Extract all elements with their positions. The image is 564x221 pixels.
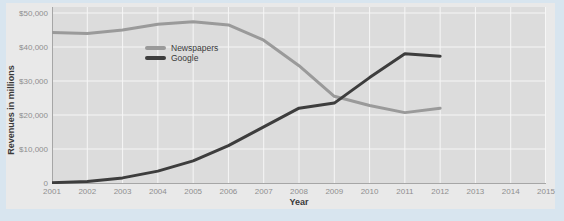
chart-canvas [52,7,546,184]
x-tick-label: 2012 [424,187,456,196]
x-tick-label: 2013 [459,187,491,196]
x-tick-label: 2006 [212,187,244,196]
x-tick-label: 2010 [354,187,386,196]
x-tick-label: 2004 [142,187,174,196]
legend-item-google: Google [145,53,218,63]
google-line-swatch [145,56,166,60]
y-tick-label: $50,000 [8,9,48,18]
plot-area [52,7,546,184]
y-axis-title: Revenues in millions [6,35,18,185]
x-tick-label: 2007 [248,187,280,196]
legend-label-google: Google [171,53,198,63]
chart-legend: Newspapers Google [145,43,218,63]
x-tick-label: 2005 [177,187,209,196]
x-tick-label: 2003 [107,187,139,196]
x-axis-title: Year [52,197,546,207]
x-tick-label: 2014 [495,187,527,196]
revenue-line-chart: Revenues in millions 0$10,000$20,000$30,… [6,3,555,209]
x-tick-label: 2001 [36,187,68,196]
x-tick-label: 2002 [71,187,103,196]
legend-label-newspapers: Newspapers [171,43,218,53]
x-tick-label: 2008 [283,187,315,196]
x-tick-label: 2011 [389,187,421,196]
chart-page: Revenues in millions 0$10,000$20,000$30,… [0,0,564,221]
legend-item-newspapers: Newspapers [145,43,218,53]
x-tick-label: 2015 [530,187,562,196]
x-tick-label: 2009 [318,187,350,196]
newspapers-line-swatch [145,46,166,50]
screenshot-root: { "colors": { "page_bg": "#d8e5ef", "fig… [0,0,564,221]
